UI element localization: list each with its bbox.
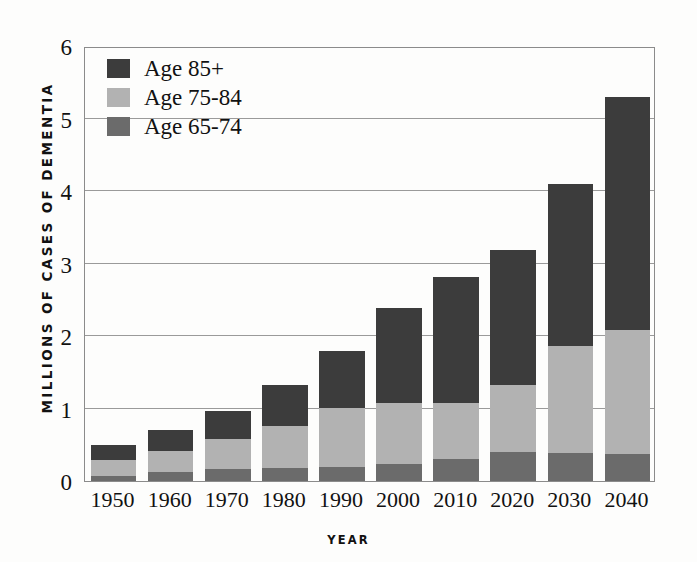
x-axis-tick-label-2020: 2020	[490, 487, 534, 513]
bar-segment-1980-age65-74	[262, 468, 308, 481]
bar-segment-1990-age75-84	[319, 408, 365, 467]
legend-label: Age 65-74	[144, 115, 242, 138]
y-axis-tick-label: 5	[42, 108, 72, 131]
bar-segment-1970-age85	[205, 411, 251, 439]
bar-segment-2020-age65-74	[490, 452, 536, 481]
x-axis-tick-label-2030: 2030	[547, 487, 591, 513]
bar-segment-2020-age75-84	[490, 385, 536, 452]
y-axis-tick-label: 6	[42, 36, 72, 59]
bar-2000	[376, 308, 422, 481]
bar-1970	[205, 411, 251, 481]
bar-1960	[148, 430, 194, 481]
legend-label: Age 85+	[144, 57, 224, 80]
x-axis-tick-label-2000: 2000	[376, 487, 420, 513]
legend-label: Age 75-84	[144, 86, 242, 109]
x-axis-tick-label-1960: 1960	[148, 487, 192, 513]
y-axis-tick-label: 4	[42, 181, 72, 204]
x-axis-tick-label-1970: 1970	[205, 487, 249, 513]
bar-segment-2020-age85	[490, 250, 536, 386]
x-axis-title: YEAR	[0, 533, 697, 547]
legend-swatch-icon	[107, 59, 130, 78]
bar-segment-1960-age65-74	[148, 472, 194, 481]
bar-segment-2010-age65-74	[433, 459, 479, 481]
dementia-cases-stacked-bar-chart: MILLIONS OF CASES OF DEMENTIA 0123456 19…	[0, 0, 697, 562]
bar-segment-2030-age75-84	[548, 346, 594, 453]
bar-1950	[91, 445, 137, 481]
bar-segment-2040-age85	[605, 97, 651, 330]
bar-2040	[605, 97, 651, 481]
bar-segment-2040-age75-84	[605, 330, 651, 454]
bar-1990	[319, 351, 365, 482]
legend-item-0: Age 85+	[107, 56, 242, 80]
bar-segment-1950-age65-74	[91, 476, 137, 481]
x-axis-tick-label-1990: 1990	[319, 487, 363, 513]
bar-segment-2030-age85	[548, 184, 594, 346]
legend-swatch-icon	[107, 117, 130, 136]
bar-segment-1990-age65-74	[319, 467, 365, 482]
y-axis-tick-label: 1	[42, 398, 72, 421]
x-axis-tick-label-2040: 2040	[604, 487, 648, 513]
x-axis-tick-label-1950: 1950	[91, 487, 135, 513]
bar-segment-1950-age85	[91, 445, 137, 460]
bar-segment-2000-age85	[376, 308, 422, 403]
bar-segment-2000-age75-84	[376, 403, 422, 463]
bar-segment-1960-age85	[148, 430, 194, 451]
bar-segment-2040-age65-74	[605, 454, 651, 481]
bar-segment-1950-age75-84	[91, 460, 137, 476]
bar-1980	[262, 385, 308, 481]
bar-segment-2010-age75-84	[433, 403, 479, 460]
y-axis-tick-label: 0	[42, 471, 72, 494]
legend-item-1: Age 75-84	[107, 85, 242, 109]
bar-segment-1990-age85	[319, 351, 365, 408]
chart-legend: Age 85+Age 75-84Age 65-74	[107, 56, 242, 138]
x-axis-tick-label-1980: 1980	[262, 487, 306, 513]
bar-2020	[490, 250, 536, 481]
bar-segment-1980-age75-84	[262, 426, 308, 468]
bar-2030	[548, 184, 594, 481]
bar-segment-1970-age75-84	[205, 439, 251, 469]
bar-segment-1970-age65-74	[205, 469, 251, 481]
bar-2010	[433, 277, 479, 481]
bar-segment-1980-age85	[262, 385, 308, 426]
y-axis-tick-label: 2	[42, 326, 72, 349]
legend-swatch-icon	[107, 88, 130, 107]
x-axis-tick-label-2010: 2010	[433, 487, 477, 513]
legend-item-2: Age 65-74	[107, 114, 242, 138]
bar-segment-2000-age65-74	[376, 464, 422, 481]
bar-segment-2030-age65-74	[548, 453, 594, 481]
bar-segment-1960-age75-84	[148, 451, 194, 472]
y-axis-tick-label: 3	[42, 253, 72, 276]
bar-segment-2010-age85	[433, 277, 479, 403]
